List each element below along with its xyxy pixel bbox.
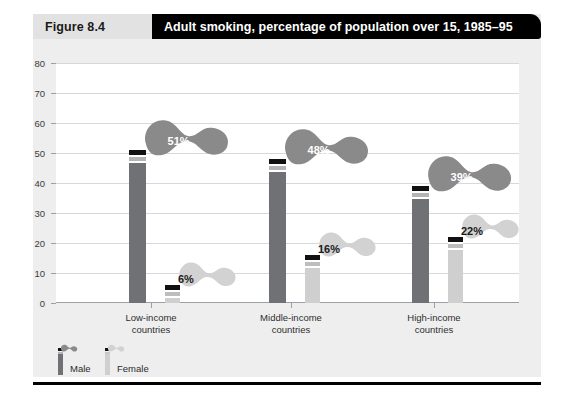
y-axis-tick-label: 0 [5, 298, 45, 309]
figure-title: Adult smoking, percentage of population … [152, 20, 513, 34]
figure-number: Figure 8.4 [33, 20, 105, 34]
x-axis-tick [151, 303, 152, 308]
gridline [56, 63, 519, 64]
y-axis-tick [51, 213, 56, 214]
legend-item-female: Female [105, 348, 149, 375]
x-axis-tick [434, 303, 435, 308]
cigarette-body [129, 163, 146, 303]
x-axis-tick [291, 303, 292, 308]
cigarette-body [165, 298, 180, 303]
bar-male [129, 150, 146, 303]
cigarette-body [305, 268, 320, 303]
smoke-swirl-male: 51% [140, 116, 232, 158]
bar-male [412, 186, 429, 303]
cigarette-body [448, 250, 463, 303]
y-axis-tick [51, 93, 56, 94]
legend-label: Male [70, 363, 91, 374]
y-axis-tick [51, 63, 56, 64]
y-axis-tick [51, 153, 56, 154]
y-axis-tick-label: 80 [5, 58, 45, 69]
bar-female [448, 237, 463, 303]
gridline [56, 213, 519, 214]
cigarette-body [58, 354, 63, 375]
cigarette-body [412, 199, 429, 303]
value-label: 6% [178, 273, 194, 285]
plot-region: 51%48%39%6%16%22% [56, 63, 519, 303]
smoke-wisp-icon [107, 339, 125, 357]
legend-label: Female [117, 363, 149, 374]
y-axis-tick [51, 303, 56, 304]
bottom-rule [33, 382, 541, 385]
cigarette-body [105, 354, 110, 375]
y-axis-tick [51, 183, 56, 184]
figure-title-band: Adult smoking, percentage of population … [152, 14, 541, 39]
smoke-swirl-female: 22% [459, 209, 521, 243]
smoke-wisp-icon [60, 339, 78, 357]
x-axis-category-line: countries [236, 324, 346, 336]
figure-header: Figure 8.4 Adult smoking, percentage of … [33, 14, 541, 39]
value-label: 51% [168, 135, 190, 147]
y-axis-tick [51, 273, 56, 274]
value-label: 39% [451, 171, 473, 183]
smoke-swirl-male: 48% [280, 125, 372, 167]
x-axis-category-line: Middle-income [236, 312, 346, 324]
x-axis-category-label: High-incomecountries [379, 312, 489, 336]
smoke-swirl-female: 6% [176, 257, 238, 291]
legend: MaleFemale [33, 340, 541, 378]
figure-number-band: Figure 8.4 [33, 14, 152, 39]
legend-cigarette-icon [58, 348, 63, 375]
gridline [56, 93, 519, 94]
value-label: 16% [318, 243, 340, 255]
smoke-swirl-male: 39% [423, 152, 515, 194]
x-axis-category-line: countries [379, 324, 489, 336]
x-axis-category-line: Low-income [96, 312, 206, 324]
x-axis-category-label: Low-incomecountries [96, 312, 206, 336]
y-axis-tick-label: 50 [5, 148, 45, 159]
cigarette-body [269, 172, 286, 303]
smoke-swirl-female: 16% [316, 227, 378, 261]
y-axis-tick [51, 123, 56, 124]
x-axis-category-line: High-income [379, 312, 489, 324]
y-axis-tick-label: 10 [5, 268, 45, 279]
y-axis-tick [51, 243, 56, 244]
y-axis-tick-label: 40 [5, 178, 45, 189]
value-label: 22% [461, 225, 483, 237]
figure-8-4: Figure 8.4 Adult smoking, percentage of … [0, 0, 573, 411]
value-label: 48% [308, 144, 330, 156]
bar-male [269, 159, 286, 303]
gridline [56, 123, 519, 124]
chart-area: 51%48%39%6%16%22% 01020304050607080 Low-… [33, 45, 541, 335]
y-axis-tick-label: 30 [5, 208, 45, 219]
y-axis-tick-label: 60 [5, 118, 45, 129]
bar-female [305, 255, 320, 303]
x-axis-category-line: countries [96, 324, 206, 336]
x-axis-category-label: Middle-incomecountries [236, 312, 346, 336]
y-axis-tick-label: 20 [5, 238, 45, 249]
y-axis-tick-label: 70 [5, 88, 45, 99]
legend-cigarette-icon [105, 348, 110, 375]
legend-item-male: Male [58, 348, 91, 375]
